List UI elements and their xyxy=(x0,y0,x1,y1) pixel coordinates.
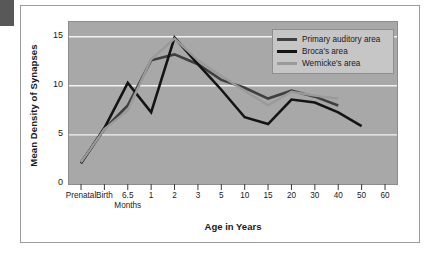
x-axis-title: Age in Years xyxy=(68,221,398,232)
y-tick-label: 10 xyxy=(41,79,63,89)
legend-label: Wernicke's area xyxy=(302,59,360,68)
legend-swatch-icon xyxy=(277,50,297,53)
x-tick-sublabel-months: Months xyxy=(103,201,153,210)
y-tick-label: 5 xyxy=(41,128,63,138)
legend-item: Wernicke's area xyxy=(277,57,389,69)
chart-legend: Primary auditory areaBroca's areaWernick… xyxy=(272,29,394,74)
x-tick-label: 60 xyxy=(363,191,407,200)
legend-swatch-icon xyxy=(277,38,297,41)
legend-item: Primary auditory area xyxy=(277,33,389,45)
legend-label: Broca's area xyxy=(302,47,348,56)
y-axis-title: Mean Density of Synapses xyxy=(28,21,39,191)
y-tick-label: 15 xyxy=(41,30,63,40)
legend-swatch-icon xyxy=(277,62,297,65)
y-tick-label: 0 xyxy=(41,177,63,187)
legend-item: Broca's area xyxy=(277,45,389,57)
legend-label: Primary auditory area xyxy=(302,35,380,44)
figure-container: Mean Density of Synapses 051015 Prenatal… xyxy=(0,0,430,253)
corner-tab-marker xyxy=(0,0,14,26)
